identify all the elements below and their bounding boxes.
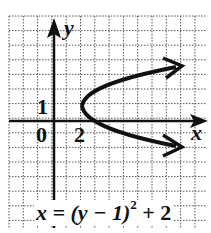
x-tick-label: 2 — [74, 124, 85, 146]
parabola-diagram: y x 0 2 1 x = (y − 1)2 + 2 — [0, 0, 211, 233]
parabola-upper-branch — [82, 67, 176, 106]
parabola-lower-branch — [82, 106, 176, 146]
equation-exponent: 2 — [130, 197, 137, 212]
equation-rhs: + 2 — [137, 200, 172, 225]
origin-label: 0 — [36, 124, 47, 146]
y-tick-label: 1 — [37, 96, 48, 118]
graph-canvas — [0, 0, 211, 233]
x-axis-label: x — [191, 122, 202, 144]
y-axis-label: y — [64, 17, 74, 39]
equation-label: x = (y − 1)2 + 2 — [34, 200, 173, 226]
equation-lhs: x = (y − 1) — [36, 200, 130, 225]
